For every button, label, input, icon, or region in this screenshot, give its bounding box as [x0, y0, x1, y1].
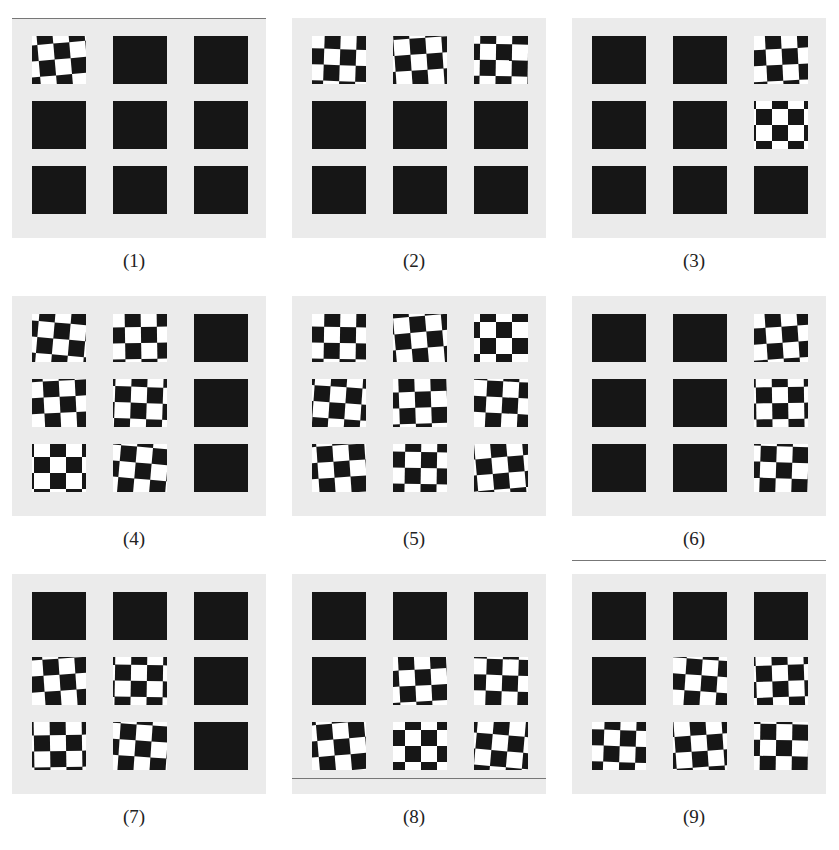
grid-square-checker — [754, 657, 808, 705]
panel-caption: (4) — [0, 528, 268, 550]
grid-square-checker — [393, 722, 447, 770]
checkerboard-pattern — [393, 657, 447, 705]
grid-square-checker — [754, 314, 808, 362]
grid-square — [194, 657, 248, 705]
checkerboard-pattern — [754, 657, 808, 705]
grid-square-checker — [32, 36, 86, 84]
checkerboard-pattern — [32, 657, 86, 705]
grid-square — [194, 166, 248, 214]
panel-5: (5) — [280, 278, 548, 548]
grid-square-checker — [474, 657, 528, 705]
checkerboard-pattern — [312, 314, 366, 362]
checkerboard-pattern — [673, 657, 727, 705]
grid-square-checker — [474, 36, 528, 84]
grid-square-checker — [754, 36, 808, 84]
checkerboard-pattern — [32, 722, 86, 770]
checkerboard-pattern — [474, 379, 528, 427]
grid-square — [194, 592, 248, 640]
checkerboard-pattern — [113, 657, 167, 705]
panel-3: (3) — [560, 0, 828, 270]
grid-square — [113, 166, 167, 214]
grid-square-checker — [754, 101, 808, 149]
grid-square-checker — [754, 444, 808, 492]
grid-square-checker — [312, 379, 366, 427]
panel-caption: (8) — [280, 806, 548, 828]
grid-square — [194, 444, 248, 492]
grid-square — [194, 36, 248, 84]
panel-4: (4) — [0, 278, 268, 548]
checkerboard-pattern — [393, 444, 447, 492]
panel-1: (1) — [0, 0, 268, 270]
checkerboard-pattern — [32, 36, 86, 84]
panel-6: (6) — [560, 278, 828, 548]
checkerboard-pattern — [754, 36, 808, 84]
grid-square-checker — [312, 444, 366, 492]
grid-square-checker — [592, 722, 646, 770]
grid-square — [592, 314, 646, 362]
checkerboard-pattern — [113, 379, 167, 427]
checkerboard-pattern — [673, 722, 727, 770]
panel-2: (2) — [280, 0, 548, 270]
checkerboard-pattern — [312, 722, 366, 770]
grid-square — [113, 36, 167, 84]
grid-square — [113, 592, 167, 640]
grid-square — [474, 592, 528, 640]
checkerboard-pattern — [474, 444, 528, 492]
grid-square — [673, 314, 727, 362]
panel-9: (9) — [560, 556, 828, 826]
grid-square — [673, 444, 727, 492]
checkerboard-pattern — [393, 379, 447, 427]
grid-square — [32, 101, 86, 149]
grid-square — [592, 657, 646, 705]
panel-8: (8) — [280, 556, 548, 826]
grid-square — [393, 592, 447, 640]
figure-grid: (1) (2) (3) (4) (5) (6) (7) (8) (9) — [0, 0, 839, 850]
checkerboard-pattern — [312, 444, 366, 492]
grid-square — [194, 101, 248, 149]
grid-square — [194, 379, 248, 427]
checkerboard-pattern — [32, 444, 86, 492]
grid-square-checker — [754, 722, 808, 770]
grid-square-checker — [474, 444, 528, 492]
grid-square — [754, 592, 808, 640]
grid-square — [312, 657, 366, 705]
rule-top — [12, 18, 266, 19]
grid-square-checker — [474, 314, 528, 362]
checkerboard-pattern — [592, 722, 646, 770]
rule-bottom — [292, 778, 546, 779]
checkerboard-pattern — [113, 314, 167, 362]
grid-square-checker — [393, 314, 447, 362]
checkerboard-pattern — [113, 444, 167, 492]
checkerboard-pattern — [312, 379, 366, 427]
grid-square — [592, 379, 646, 427]
checkerboard-pattern — [474, 36, 528, 84]
checkerboard-pattern — [393, 36, 447, 84]
panel-caption: (5) — [280, 528, 548, 550]
panel-caption: (1) — [0, 250, 268, 272]
grid-square-checker — [113, 722, 167, 770]
grid-square — [32, 592, 86, 640]
grid-square — [312, 101, 366, 149]
checkerboard-pattern — [32, 379, 86, 427]
grid-square — [592, 166, 646, 214]
grid-square — [673, 101, 727, 149]
grid-square — [592, 36, 646, 84]
grid-square-checker — [393, 36, 447, 84]
panel-caption: (6) — [560, 528, 828, 550]
grid-square — [393, 166, 447, 214]
panel-caption: (2) — [280, 250, 548, 272]
grid-square-checker — [474, 722, 528, 770]
checkerboard-pattern — [312, 36, 366, 84]
checkerboard-pattern — [754, 101, 808, 149]
checkerboard-pattern — [32, 314, 86, 362]
grid-square — [32, 166, 86, 214]
panel-caption: (9) — [560, 806, 828, 828]
grid-square-checker — [32, 444, 86, 492]
panel-caption: (3) — [560, 250, 828, 272]
grid-square-checker — [113, 379, 167, 427]
grid-square-checker — [312, 722, 366, 770]
grid-square-checker — [673, 722, 727, 770]
grid-square-checker — [32, 722, 86, 770]
grid-square — [592, 101, 646, 149]
grid-square-checker — [312, 36, 366, 84]
